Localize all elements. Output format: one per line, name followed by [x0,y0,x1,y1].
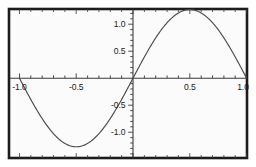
x-tick-label-0.5: 0.5 [184,82,196,92]
y-tick-label--0.5: -0.5 [111,100,126,110]
y-tick-label--1.0: -1.0 [111,127,126,137]
plot-area-background [9,9,247,158]
plot-canvas: -1.0 -0.5 0.5 1.0 1.0 0.5 -0.5 -1.0 [0,0,256,167]
y-tick-label-0.5: 0.5 [114,46,126,56]
x-tick-label--1.0: -1.0 [12,82,27,92]
y-tick-label-1.0: 1.0 [114,19,126,29]
plot-figure: -1.0 -0.5 0.5 1.0 1.0 0.5 -0.5 -1.0 [0,0,256,167]
x-tick-label-1.0: 1.0 [237,82,249,92]
x-tick-label--0.5: -0.5 [69,82,84,92]
